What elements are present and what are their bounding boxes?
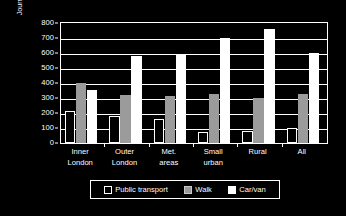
y-axis-ticks: 0100200300400500600700800 [26,22,58,144]
y-tick-mark [55,83,58,84]
legend-item[interactable]: Walk [184,185,212,194]
legend-item[interactable]: Car/van [228,185,266,194]
legend-swatch-icon [104,186,112,194]
y-tick-label: 0 [50,139,54,147]
bar [309,53,320,143]
bar-chart: Journeys per person per year 01002003004… [0,0,346,216]
bars-layer [61,23,327,143]
x-tick-label: Smallurban [203,147,222,168]
x-tick-label-line: Rural [248,147,266,158]
y-tick-mark [55,38,58,39]
x-tick-label-line: Inner [67,147,92,158]
x-tick-label-line: urban [203,158,222,169]
bar [209,94,220,144]
legend-label: Public transport [115,185,168,194]
x-tick-label-line: Met. [159,147,178,158]
legend-label: Walk [195,185,212,194]
x-tick-label: OuterLondon [112,147,137,168]
y-tick-mark [55,23,58,24]
bar [120,95,131,143]
y-tick-mark [55,98,58,99]
y-tick-mark [55,53,58,54]
bar [253,98,264,143]
bar [65,111,76,143]
bar [198,132,209,143]
y-tick-label: 300 [41,94,54,102]
x-tick-label-line: All [298,147,306,158]
y-tick-label: 700 [41,34,54,42]
legend-swatch-icon [184,186,192,194]
x-tick-label-line: London [67,158,92,169]
x-tick-label: All [298,147,306,158]
bar [298,94,309,143]
bar [76,83,87,143]
bar [264,29,275,143]
bar [242,131,253,143]
bar [154,119,165,143]
x-tick-label-line: Outer [112,147,137,158]
x-tick-label-line: Small [203,147,222,158]
y-tick-label: 500 [41,64,54,72]
y-tick-mark [55,143,58,144]
bar [87,90,98,143]
bar [131,56,142,143]
bar [287,128,298,143]
x-tick-label-line: areas [159,158,178,169]
y-tick-mark [55,128,58,129]
y-tick-label: 800 [41,19,54,27]
x-tick-label: Rural [248,147,266,158]
y-tick-label: 200 [41,109,54,117]
x-tick-label: InnerLondon [67,147,92,168]
legend-label: Car/van [239,185,266,194]
y-tick-label: 100 [41,124,54,132]
y-tick-label: 400 [41,79,54,87]
x-axis-labels: InnerLondonOuterLondonMet.areasSmallurba… [60,147,328,173]
y-tick-label: 600 [41,49,54,57]
y-axis-title: Journeys per person per year [14,0,26,34]
bar [109,116,120,143]
x-tick-label-line: London [112,158,137,169]
y-tick-mark [55,113,58,114]
legend-swatch-icon [228,186,236,194]
x-tick-label: Met.areas [159,147,178,168]
bar [220,38,231,143]
legend-item[interactable]: Public transport [104,185,168,194]
y-tick-mark [55,68,58,69]
chart-legend: Public transportWalkCar/van [90,180,280,199]
bar [165,96,176,143]
bar [176,55,187,144]
